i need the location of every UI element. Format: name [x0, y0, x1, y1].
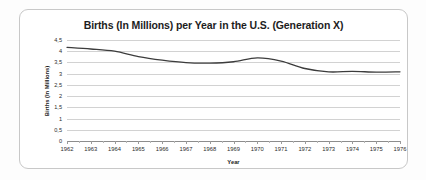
x-axis-tick: [115, 141, 116, 144]
x-axis-tick: [186, 141, 187, 144]
x-axis-tick: [91, 141, 92, 144]
x-axis-tick-label: 1963: [84, 146, 97, 152]
x-axis-tick: [234, 141, 235, 144]
y-axis-tick-label: 1: [59, 116, 62, 122]
chart-title: Births (In Millions) per Year in the U.S…: [20, 19, 407, 31]
y-axis-tick-label: 2,5: [54, 82, 62, 88]
x-axis-tick-label: 1973: [322, 146, 335, 152]
x-axis-tick: [67, 141, 68, 144]
x-axis-minor-tick: [150, 141, 151, 143]
y-axis-tick-label: 2: [59, 93, 62, 99]
x-axis-tick-labels: 1962196319641965196619671968196919701971…: [67, 146, 400, 158]
y-axis-tick-label: 1,5: [54, 104, 62, 110]
x-axis-title: Year: [67, 159, 400, 165]
y-axis-tick-label: 0,5: [54, 127, 62, 133]
x-axis-minor-tick: [103, 141, 104, 143]
x-axis-minor-tick: [269, 141, 270, 143]
x-axis-tick: [376, 141, 377, 144]
x-axis-minor-tick: [198, 141, 199, 143]
x-axis-tick-label: 1969: [227, 146, 240, 152]
x-axis-ticks: [67, 141, 400, 145]
x-axis-tick-label: 1965: [132, 146, 145, 152]
x-axis-minor-tick: [245, 141, 246, 143]
y-axis-tick-label: 4,5: [54, 37, 62, 43]
x-axis-tick-label: 1975: [370, 146, 383, 152]
x-axis-tick: [138, 141, 139, 144]
x-axis-tick: [210, 141, 211, 144]
x-axis-tick: [329, 141, 330, 144]
x-axis-tick-label: 1968: [203, 146, 216, 152]
x-axis-minor-tick: [364, 141, 365, 143]
x-axis-minor-tick: [341, 141, 342, 143]
x-axis-tick: [162, 141, 163, 144]
chart-frame: Births (In Millions) per Year in the U.S…: [19, 9, 408, 169]
x-axis-tick: [352, 141, 353, 144]
data-line-series: [67, 40, 400, 141]
x-axis-tick-label: 1972: [298, 146, 311, 152]
x-axis-minor-tick: [293, 141, 294, 143]
x-axis-tick-label: 1962: [61, 146, 74, 152]
x-axis-tick-label: 1964: [108, 146, 121, 152]
x-axis-tick: [281, 141, 282, 144]
y-axis-tick-label: 0: [59, 138, 62, 144]
x-axis-tick: [305, 141, 306, 144]
x-axis-minor-tick: [126, 141, 127, 143]
x-axis-minor-tick: [317, 141, 318, 143]
y-axis-tick-label: 3,5: [54, 59, 62, 65]
x-axis-tick: [400, 141, 401, 144]
x-axis-minor-tick: [388, 141, 389, 143]
x-axis-tick-label: 1970: [251, 146, 264, 152]
x-axis-tick: [257, 141, 258, 144]
births-line-path: [67, 47, 400, 72]
x-axis-tick-label: 1976: [394, 146, 407, 152]
x-axis-tick-label: 1971: [275, 146, 288, 152]
y-axis-tick-label: 4: [59, 48, 62, 54]
x-axis-minor-tick: [79, 141, 80, 143]
plot-area: [67, 40, 400, 141]
y-axis-tick-labels: 00,511,522,533,544,5: [20, 40, 65, 141]
chart-page: Births (In Millions) per Year in the U.S…: [0, 0, 426, 180]
x-axis-tick-label: 1974: [346, 146, 359, 152]
x-axis-tick-label: 1966: [156, 146, 169, 152]
x-axis-minor-tick: [174, 141, 175, 143]
x-axis-tick-label: 1967: [179, 146, 192, 152]
x-axis-minor-tick: [222, 141, 223, 143]
y-axis-tick-label: 3: [59, 71, 62, 77]
